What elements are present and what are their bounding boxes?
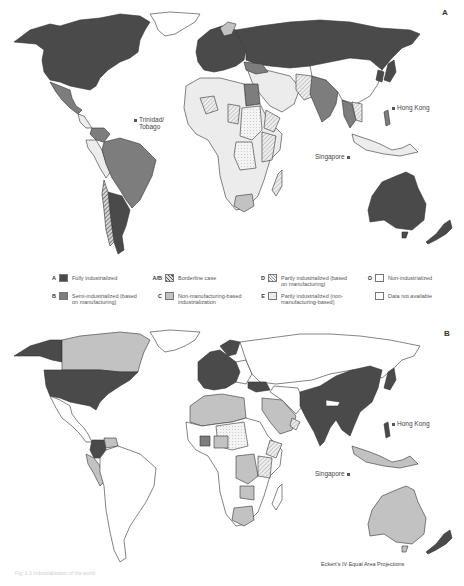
region-philippines	[384, 110, 390, 126]
label-singapore-text: Singapore	[315, 470, 345, 477]
region-greenland	[150, 330, 200, 352]
region-indonesia	[352, 446, 418, 468]
map-panel-a: A Trinidad/ Tobago Hong Kong Singapore	[0, 0, 464, 260]
singapore-marker-icon	[347, 473, 350, 476]
label-trinidad-line1: Trinidad/	[139, 116, 164, 123]
legend-item-b: B Semi-industrialized (based on manufact…	[44, 292, 144, 305]
region-zimbabwe	[240, 486, 254, 500]
map-panel-b: B Hong Kong Singapore	[0, 326, 464, 566]
legend-code: A	[44, 274, 56, 282]
region-niger	[228, 104, 240, 124]
legend-code: A/B	[146, 274, 162, 282]
region-madagascar	[272, 170, 282, 196]
label-singapore-a: Singapore	[315, 153, 352, 160]
singapore-marker-icon	[347, 156, 350, 159]
legend-label: Partly industrialized (non-manufacturing…	[281, 292, 359, 305]
legend-swatch-partly-manufacturing	[268, 274, 277, 282]
region-australia	[368, 486, 426, 544]
region-new-zealand	[426, 530, 452, 554]
legend-item-ab: A/B Borderline case	[146, 274, 216, 282]
label-hong-kong-a: Hong Kong	[390, 104, 430, 111]
legend-item-o: O Non-industrialized	[360, 274, 432, 282]
legend-label: Non-industrialized	[388, 274, 432, 281]
region-australia	[368, 172, 426, 230]
region-tasmania	[402, 546, 408, 552]
legend-label: Non-manufacturing-based industrializatio…	[178, 292, 258, 305]
legend-code: B	[44, 292, 56, 300]
region-central-america	[78, 114, 92, 128]
region-south-america	[100, 446, 156, 562]
region-nigeria	[214, 436, 228, 448]
region-canada	[62, 332, 150, 372]
legend-label: Partly industrialized (based on manufact…	[281, 274, 353, 287]
label-hong-kong-b: Hong Kong	[390, 420, 430, 427]
legend-swatch-non-industrialized	[375, 274, 384, 282]
region-new-zealand	[426, 220, 452, 244]
legend-label: Data not available	[388, 292, 432, 299]
legend-swatch-non-manufacturing	[165, 292, 174, 300]
legend-label: Fully industrialized	[72, 274, 117, 281]
panel-letter-b: B	[444, 329, 450, 338]
label-trinidad: Trinidad/ Tobago	[132, 116, 164, 130]
region-east-africa	[262, 132, 276, 162]
legend-code: D	[253, 274, 265, 282]
label-trinidad-line2: Tobago	[139, 123, 160, 130]
trinidad-marker-icon	[134, 119, 137, 122]
legend-label: Semi-industrialized (based on manufactur…	[72, 292, 144, 305]
legend-label: Borderline case	[178, 274, 216, 281]
legend-swatch-data-not-available	[375, 292, 384, 300]
region-tasmania	[402, 232, 408, 238]
label-hong-kong-text: Hong Kong	[397, 104, 430, 111]
label-singapore-text: Singapore	[315, 153, 345, 160]
legend-code: E	[253, 292, 265, 300]
region-ghana	[200, 436, 210, 446]
label-hong-kong-text: Hong Kong	[397, 420, 430, 427]
world-map-a	[0, 0, 464, 260]
region-alaska	[14, 340, 62, 362]
legend-item-na: Data not available	[360, 292, 432, 300]
label-singapore-b: Singapore	[315, 470, 352, 477]
legend-code: O	[360, 274, 372, 282]
region-kenya	[258, 456, 272, 478]
region-turkey	[248, 382, 270, 392]
world-map-b	[0, 326, 464, 566]
projection-note: Eckert's IV Equal Area Projections	[321, 561, 404, 567]
map-legend: A Fully industrialized B Semi-industrial…	[0, 268, 464, 318]
region-ethiopia	[264, 110, 280, 132]
legend-item-c: C Non-manufacturing-based industrializat…	[150, 292, 258, 305]
region-greenland	[150, 12, 200, 36]
legend-code: C	[150, 292, 162, 300]
legend-swatch-fully-industrialized	[59, 274, 68, 282]
legend-item-a: A Fully industrialized	[44, 274, 117, 282]
region-europe	[198, 350, 240, 390]
legend-item-e: E Partly industrialized (non-manufacturi…	[253, 292, 359, 305]
hong-kong-marker-icon	[392, 107, 395, 110]
legend-swatch-borderline	[165, 274, 174, 282]
region-egypt	[244, 84, 260, 106]
hong-kong-marker-icon	[392, 423, 395, 426]
region-north-america	[14, 14, 150, 90]
legend-swatch-partly-non-manufacturing	[268, 292, 277, 300]
region-indonesia	[352, 134, 418, 156]
region-madagascar	[272, 484, 282, 510]
panel-letter-a: A	[442, 8, 448, 17]
figure-caption: Fig. 1.3 Industrialization of the world	[15, 570, 315, 576]
legend-item-d: D Partly industrialized (based on manufa…	[253, 274, 353, 287]
legend-swatch-semi-industrialized	[59, 292, 68, 300]
